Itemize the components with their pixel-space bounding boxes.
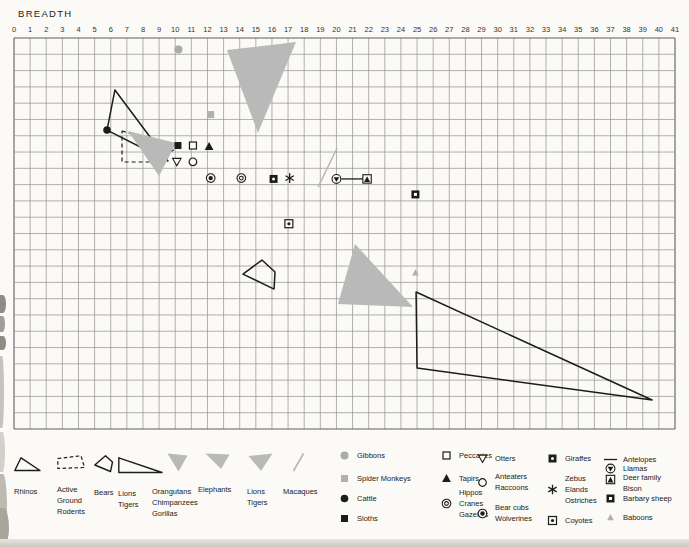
x-tick-label: 3 [60, 25, 64, 34]
legend-marker-glyph [442, 474, 451, 482]
legend-label: Baboons [623, 512, 653, 523]
legend-label: Otters [495, 453, 515, 464]
legend-label: Macaques [283, 486, 318, 497]
bears-outline-shape [243, 260, 275, 289]
plot-marker-open-inv-triangle [173, 158, 181, 165]
x-tick-label: 30 [493, 25, 501, 34]
rhinos-shape-icon [14, 457, 41, 472]
legend-label: Lions Tigers [247, 486, 273, 508]
legend-label: Sloths [357, 513, 378, 524]
x-tick-label: 38 [622, 25, 630, 34]
legend-item-anteaters-raccoons: Anteaters Raccoons [476, 471, 528, 493]
legend-item-gibbons: Gibbons [338, 449, 385, 462]
legend-marker-glyph [442, 499, 451, 508]
legend-item-baboons: Baboons [604, 511, 653, 524]
legend-item-sloths: Sloths [338, 512, 378, 525]
x-tick-label: 10 [171, 25, 179, 34]
legend-marker-glyph [478, 455, 486, 462]
plot-marker-asterisk [286, 173, 294, 183]
legend-item-lions-tigers-gray: Lions Tigers [247, 442, 273, 519]
elephants-shape-icon [205, 453, 230, 470]
plot-marker-filled-square [174, 142, 181, 149]
x-tick-label: 29 [477, 25, 485, 34]
macaques-shape-icon [293, 453, 304, 472]
legend-label: Gibbons [357, 450, 385, 461]
x-tick-label: 14 [236, 25, 244, 34]
x-tick-label: 15 [252, 25, 260, 34]
y-axis-partial-label: 2 [0, 374, 2, 383]
legend-label: Elephants [198, 484, 231, 495]
scan-artifact [0, 508, 9, 542]
x-tick-label: 7 [125, 25, 129, 34]
zebus-marker-icon [546, 483, 559, 496]
sloths-marker-icon [338, 512, 351, 525]
legend-marker-glyph [443, 452, 450, 459]
x-tick-label: 23 [381, 25, 389, 34]
lions-tigers-gray-triangle [338, 244, 413, 307]
x-tick-label: 25 [413, 25, 421, 34]
x-tick-label: 37 [606, 25, 614, 34]
legend-label: Cattle [357, 493, 377, 504]
orangutans-chimpanzees-gorillas-gray-triangle [128, 131, 176, 176]
x-tick-label: 8 [141, 25, 145, 34]
x-tick-label: 28 [461, 25, 469, 34]
x-tick-label: 18 [300, 25, 308, 34]
legend-label: Coyotes [565, 515, 593, 526]
plot-marker-gray-square [207, 111, 214, 118]
plot-marker-gray-triangle-small [412, 269, 419, 275]
plot-marker-double-circle [237, 174, 246, 183]
cattle-marker-icon [338, 492, 351, 505]
x-tick-label: 17 [284, 25, 292, 34]
legend-item-barbary-sheep: Barbary sheep [604, 492, 672, 505]
legend-label: Orangutans Chimpanzees Gorillas [152, 486, 198, 519]
x-tick-label: 21 [348, 25, 356, 34]
legend-item-bear-cubs-wolverines: Bear cubs Wolverines [476, 502, 532, 524]
legend-marker-glyph [341, 475, 348, 482]
x-tick-label: 34 [558, 25, 566, 34]
legend-marker-glyph [607, 514, 614, 520]
chart-plot-area: 0123456789101112131415161718192021222324… [0, 0, 689, 436]
scan-artifact-bottom-strip [0, 539, 689, 547]
bear-cubs-marker-icon [476, 507, 489, 520]
legend-item-orangutans-chimpanzees-gorillas: Orangutans Chimpanzees Gorillas [152, 442, 198, 530]
peccaries-marker-icon [440, 449, 453, 462]
lions-tigers-gray-shape-icon [248, 453, 273, 472]
legend-item-rhinos: Rhinos [14, 446, 41, 508]
x-tick-label: 41 [671, 25, 679, 34]
plot-marker-open-square [189, 142, 196, 149]
x-tick-label: 20 [332, 25, 340, 34]
x-tick-label: 26 [429, 25, 437, 34]
legend-marker-glyph [607, 495, 615, 503]
x-tick-label: 27 [445, 25, 453, 34]
legend-marker-glyph [606, 475, 614, 483]
scan-artifact [0, 432, 5, 472]
legend-item-zebus-elands-ostriches: Zebus Elands Ostriches [546, 473, 597, 506]
x-tick-label: 32 [526, 25, 534, 34]
scan-artifact [0, 474, 7, 538]
x-tick-label: 4 [76, 25, 80, 34]
plot-marker-bullseye [206, 174, 215, 183]
plot-marker-filled-triangle [205, 142, 214, 150]
bears-shape-icon [94, 455, 114, 473]
x-tick-label: 39 [639, 25, 647, 34]
deer-family-marker-icon [604, 473, 617, 486]
legend-item-active-ground-rodents: Active Ground Rodents [57, 444, 86, 528]
plot-marker-square-white-dot [270, 175, 278, 183]
plot-marker-open-circle [189, 158, 197, 166]
legend-label: Spider Monkeys [357, 473, 411, 484]
tapirs-marker-icon [440, 472, 453, 485]
plot-marker-square-triangle [363, 175, 371, 183]
y-axis-partial-label: 3 [0, 390, 2, 399]
legend-label: Anteaters Raccoons [495, 471, 528, 493]
legend-label: Bear cubs Wolverines [495, 502, 532, 524]
plot-marker-filled-circle [103, 126, 111, 134]
legend-item-cattle: Cattle [338, 492, 377, 505]
spider-monkeys-marker-icon [338, 472, 351, 485]
legend-marker-glyph [341, 515, 348, 522]
x-tick-label: 12 [203, 25, 211, 34]
legend-marker-glyph [341, 495, 349, 503]
legend-marker-glyph [479, 478, 487, 486]
legend-marker-glyph [549, 517, 557, 525]
plot-marker-filled-square-white-square [411, 190, 419, 198]
legend-item-macaques: Macaques [283, 442, 318, 508]
